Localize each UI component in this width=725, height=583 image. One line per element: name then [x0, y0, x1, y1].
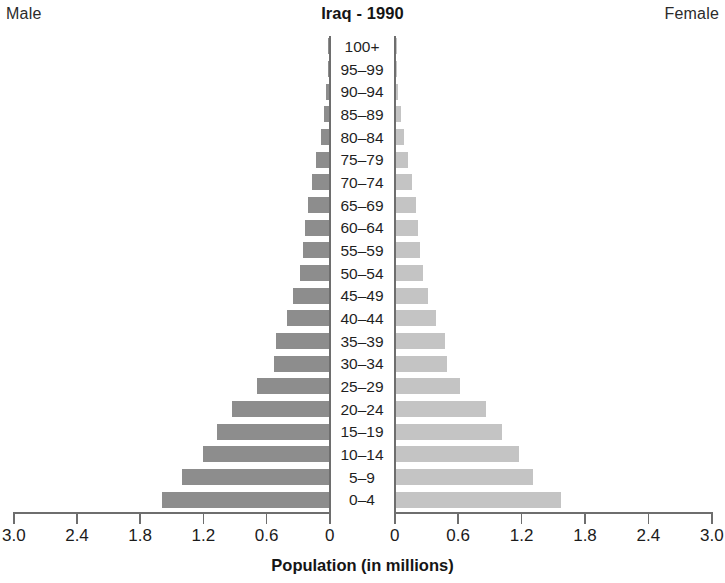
- male-bar: [312, 174, 329, 190]
- male-bar: [321, 129, 329, 145]
- x-axis-tick: [394, 512, 396, 524]
- male-bar: [293, 288, 329, 304]
- age-group-label: 50–54: [330, 263, 394, 286]
- age-group-label: 65–69: [330, 195, 394, 218]
- male-bar: [328, 61, 329, 77]
- x-axis-tick-label: 0: [370, 526, 420, 546]
- male-bar: [203, 446, 329, 462]
- female-bar: [396, 424, 502, 440]
- x-axis-tick-label: 1.8: [560, 526, 610, 546]
- female-bar: [396, 310, 436, 326]
- population-pyramid-chart: Male Iraq - 1990 Female 100+95–9990–9485…: [0, 0, 725, 583]
- female-bar: [396, 106, 401, 122]
- age-group-label: 15–19: [330, 421, 394, 444]
- pyramid-row: 95–99: [0, 59, 725, 82]
- age-group-label: 55–59: [330, 240, 394, 263]
- female-bar: [396, 469, 533, 485]
- female-bar: [396, 333, 446, 349]
- male-bar: [287, 310, 329, 326]
- x-axis-tick: [266, 512, 268, 524]
- age-group-label: 40–44: [330, 308, 394, 331]
- female-bar: [396, 242, 420, 258]
- x-axis-tick: [13, 512, 15, 524]
- x-axis-tick: [139, 512, 141, 524]
- male-bar: [274, 356, 329, 372]
- pyramid-row: 45–49: [0, 285, 725, 308]
- x-axis-tick: [584, 512, 586, 524]
- age-group-label: 90–94: [330, 81, 394, 104]
- chart-title: Iraq - 1990: [0, 4, 725, 23]
- pyramid-row: 90–94: [0, 81, 725, 104]
- male-bar: [182, 469, 329, 485]
- x-axis-tick-label: 0: [305, 526, 355, 546]
- male-bar: [326, 84, 329, 100]
- x-axis-tick: [711, 512, 713, 524]
- age-group-label: 0–4: [330, 489, 394, 512]
- age-group-label: 100+: [330, 36, 394, 59]
- x-axis-tick-label: 1.8: [115, 526, 165, 546]
- x-axis-line-left: [13, 512, 330, 514]
- x-axis-tick: [203, 512, 205, 524]
- male-bar: [162, 492, 329, 508]
- pyramid-row: 75–79: [0, 149, 725, 172]
- age-group-label: 35–39: [330, 331, 394, 354]
- pyramid-row: 60–64: [0, 217, 725, 240]
- pyramid-row: 0–4: [0, 489, 725, 512]
- female-bar: [396, 265, 423, 281]
- female-bar: [396, 288, 429, 304]
- pyramid-row: 80–84: [0, 127, 725, 150]
- age-group-label: 95–99: [330, 59, 394, 82]
- age-group-label: 10–14: [330, 444, 394, 467]
- female-bar: [396, 401, 487, 417]
- x-axis-tick-label: 3.0: [687, 526, 725, 546]
- female-bar: [396, 378, 460, 394]
- x-axis-tick-label: 1.2: [178, 526, 228, 546]
- x-axis-title: Population (in millions): [0, 556, 725, 575]
- age-group-label: 5–9: [330, 467, 394, 490]
- male-bar: [308, 197, 329, 213]
- pyramid-row: 25–29: [0, 376, 725, 399]
- male-bar: [324, 106, 329, 122]
- age-group-label: 30–34: [330, 353, 394, 376]
- male-bar: [257, 378, 329, 394]
- pyramid-row: 15–19: [0, 421, 725, 444]
- x-axis-tick: [457, 512, 459, 524]
- x-axis-tick: [329, 512, 331, 524]
- male-bar: [328, 38, 329, 54]
- female-bar: [396, 356, 448, 372]
- plot-area: 100+95–9990–9485–8980–8475–7970–7465–696…: [0, 36, 725, 512]
- female-bar: [396, 84, 399, 100]
- female-bar: [396, 197, 416, 213]
- female-bar: [396, 220, 418, 236]
- pyramid-row: 40–44: [0, 308, 725, 331]
- pyramid-row: 5–9: [0, 467, 725, 490]
- female-bar: [396, 152, 409, 168]
- age-group-label: 80–84: [330, 127, 394, 150]
- pyramid-row: 10–14: [0, 444, 725, 467]
- x-axis-tick-label: 0.6: [242, 526, 292, 546]
- male-bar: [303, 242, 329, 258]
- male-bar: [305, 220, 329, 236]
- pyramid-row: 30–34: [0, 353, 725, 376]
- pyramid-row: 100+: [0, 36, 725, 59]
- male-bar: [276, 333, 329, 349]
- x-axis-tick-label: 2.4: [52, 526, 102, 546]
- age-group-label: 60–64: [330, 217, 394, 240]
- male-bar: [316, 152, 329, 168]
- x-axis-tick: [648, 512, 650, 524]
- x-axis-tick-label: 3.0: [0, 526, 39, 546]
- pyramid-row: 55–59: [0, 240, 725, 263]
- female-bar: [396, 492, 561, 508]
- male-bar: [217, 424, 329, 440]
- age-group-label: 85–89: [330, 104, 394, 127]
- female-bar: [396, 446, 519, 462]
- x-axis-tick-label: 2.4: [623, 526, 673, 546]
- x-axis-tick-label: 0.6: [433, 526, 483, 546]
- age-group-label: 70–74: [330, 172, 394, 195]
- x-axis-tick: [521, 512, 523, 524]
- pyramid-row: 20–24: [0, 399, 725, 422]
- age-group-label: 20–24: [330, 399, 394, 422]
- pyramid-row: 35–39: [0, 331, 725, 354]
- pyramid-row: 65–69: [0, 195, 725, 218]
- age-group-label: 75–79: [330, 149, 394, 172]
